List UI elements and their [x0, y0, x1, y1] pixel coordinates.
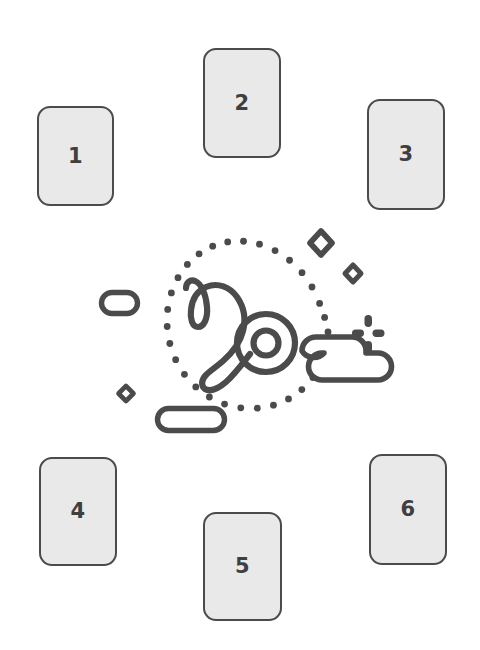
- pill-left-icon: [102, 293, 138, 314]
- center-illustration: [80, 215, 400, 445]
- card-number-label: 1: [68, 146, 83, 167]
- spread-card-4[interactable]: 4: [39, 457, 117, 566]
- card-number-label: 4: [70, 501, 85, 522]
- cloud-icon: [302, 337, 392, 380]
- pill-bottom-icon: [158, 409, 225, 431]
- diamond-small-icon: [119, 386, 134, 401]
- card-number-label: 6: [400, 499, 415, 520]
- diamond-large-icon: [310, 231, 332, 255]
- zodiac-card-spread: 1 2 3 4 5 6: [0, 0, 480, 650]
- spread-card-1[interactable]: 1: [37, 106, 114, 206]
- card-number-label: 5: [235, 556, 250, 577]
- card-number-label: 3: [398, 144, 413, 165]
- spread-card-2[interactable]: 2: [203, 48, 281, 158]
- spread-card-3[interactable]: 3: [367, 99, 445, 210]
- card-number-label: 2: [234, 93, 249, 114]
- diamond-medium-icon: [345, 265, 361, 282]
- capricorn-glyph-icon: [186, 280, 295, 390]
- spread-card-6[interactable]: 6: [369, 454, 447, 565]
- spread-card-5[interactable]: 5: [203, 512, 282, 621]
